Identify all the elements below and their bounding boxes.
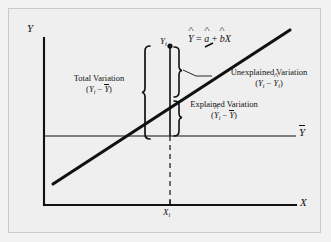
explained-term1: Y <box>214 111 219 121</box>
observation-point-label: Yi <box>160 36 167 46</box>
equation-plus: + <box>212 33 218 44</box>
mean-line-label-text: Y <box>299 126 305 138</box>
equation-x: X <box>225 33 231 44</box>
unexplained-variation-brace <box>174 47 182 97</box>
unexplained-variation-formula: (Yi − Yi) <box>213 79 325 89</box>
explained-close-paren: ) <box>234 110 237 120</box>
total-variation-annotation: Total Variation (Yi − Y) <box>56 74 142 94</box>
explained-variation-formula: (Yi − Y) <box>174 111 274 121</box>
total-close-paren: ) <box>109 84 112 94</box>
total-term2: Y <box>104 85 109 95</box>
unexplained-leader-line <box>183 70 212 76</box>
explained-variation-title: Explained Variation <box>190 99 258 109</box>
explained-term2: Y <box>229 111 234 121</box>
total-minus: − <box>97 84 102 94</box>
total-term1: Y <box>89 84 94 94</box>
unexplained-term1-subscript: i <box>263 83 265 89</box>
explained-minus: − <box>222 110 227 120</box>
total-term1-subscript: i <box>94 89 96 95</box>
observation-point-subscript: i <box>165 40 167 47</box>
explained-variation-annotation: Explained Variation (Yi − Y) <box>174 100 274 120</box>
x-tick-label: Xi <box>163 207 170 217</box>
x-axis-label: X <box>300 196 307 208</box>
unexplained-variation-title: Unexplained Variation <box>231 67 308 77</box>
figure-page: Y X Y Yi Xi Y = a + bX Total Variation (… <box>0 0 331 242</box>
mean-line-label: Y <box>299 126 305 138</box>
x-tick-symbol: X <box>163 207 169 217</box>
x-tick-subscript: i <box>169 211 171 218</box>
equation-y-hat: Y <box>188 33 194 44</box>
unexplained-term2-subscript: i <box>278 83 280 89</box>
unexplained-minus: − <box>267 78 272 88</box>
equation-equals: = <box>196 33 202 44</box>
unexplained-variation-annotation: Unexplained Variation (Yi − Yi) <box>213 68 325 88</box>
y-axis-label: Y <box>27 22 33 34</box>
observation-point <box>167 43 172 48</box>
regression-equation: Y = a + bX <box>188 33 231 44</box>
equation-b-hat: b <box>220 33 225 44</box>
explained-term1-subscript: i <box>219 115 221 121</box>
total-variation-formula: (Yi − Y) <box>56 85 142 95</box>
equation-a-hat: a <box>204 33 209 44</box>
total-variation-title: Total Variation <box>74 73 124 83</box>
unexplained-close-paren: ) <box>280 78 283 88</box>
